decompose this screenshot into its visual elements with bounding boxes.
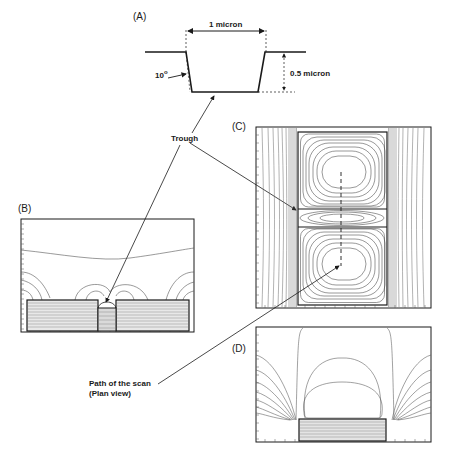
panel-c-contour-plot: (C)	[232, 121, 431, 308]
panel-c-cell-contours	[300, 134, 385, 303]
angle-label: 10o	[155, 69, 168, 80]
panel-a-label: (A)	[133, 11, 146, 22]
panel-b-contour-plot: (B)	[18, 203, 194, 332]
scan-path-label-2: (Plan view)	[89, 389, 131, 398]
panel-c-trough-outline	[298, 132, 387, 305]
panel-c-frame	[256, 127, 431, 308]
panel-b-label: (B)	[18, 203, 31, 214]
angle-pointer	[168, 74, 186, 78]
panel-d-trough-block	[299, 419, 386, 441]
width-label: 1 micron	[209, 20, 242, 29]
panel-d-contour-plot: (D)	[232, 327, 431, 442]
panel-b-block-right	[116, 300, 189, 331]
trough-label: Trough	[171, 134, 198, 143]
depth-label: 0.5 micron	[290, 69, 330, 78]
panel-c-label: (C)	[232, 121, 246, 132]
panel-b-block-left	[27, 300, 98, 331]
trough-pointer-c	[190, 143, 296, 210]
trench-profile	[145, 52, 306, 92]
panel-a-trench-diagram: (A) 1 micron 0.5 micron 10o	[133, 11, 330, 92]
figure-canvas: (A) 1 micron 0.5 micron 10o Trough (B)	[0, 0, 451, 460]
panel-d-label: (D)	[232, 343, 246, 354]
panel-b-contours	[21, 248, 194, 300]
panel-b-trough	[98, 308, 116, 331]
trough-pointer-a	[192, 96, 214, 133]
panel-d-contours	[256, 328, 431, 420]
scan-path-label-1: Path of the scan	[89, 379, 151, 388]
trough-pointer-b	[106, 145, 180, 302]
